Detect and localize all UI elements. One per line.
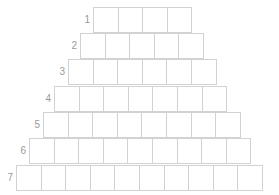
grid-cell[interactable] bbox=[65, 165, 91, 191]
grid-cell[interactable] bbox=[117, 112, 143, 138]
grid-cell[interactable] bbox=[154, 33, 180, 59]
grid-cell[interactable] bbox=[141, 112, 167, 138]
grid-cell[interactable] bbox=[191, 112, 217, 138]
grid-cell[interactable] bbox=[201, 138, 227, 164]
grid-cell[interactable] bbox=[93, 7, 119, 33]
pyramid-row-6 bbox=[29, 138, 251, 164]
grid-cell[interactable] bbox=[79, 86, 105, 112]
grid-cell[interactable] bbox=[213, 165, 239, 191]
grid-cell[interactable] bbox=[142, 59, 168, 85]
pyramid-row-2 bbox=[80, 33, 204, 59]
grid-cell[interactable] bbox=[80, 33, 106, 59]
pyramid-row-5 bbox=[43, 112, 241, 138]
grid-cell[interactable] bbox=[92, 112, 118, 138]
grid-cell[interactable] bbox=[188, 165, 214, 191]
grid-cell[interactable] bbox=[68, 59, 94, 85]
grid-cell[interactable] bbox=[139, 165, 165, 191]
grid-cell[interactable] bbox=[237, 165, 263, 191]
row-label: 4 bbox=[39, 86, 51, 112]
row-label: 1 bbox=[78, 7, 90, 33]
grid-cell[interactable] bbox=[167, 7, 193, 33]
grid-cell[interactable] bbox=[90, 165, 116, 191]
grid-cell[interactable] bbox=[93, 59, 119, 85]
row-label: 3 bbox=[53, 59, 65, 85]
grid-cell[interactable] bbox=[68, 112, 94, 138]
grid-cell[interactable] bbox=[127, 138, 153, 164]
grid-cell[interactable] bbox=[202, 86, 228, 112]
grid-cell[interactable] bbox=[16, 165, 42, 191]
pyramid-row-7 bbox=[16, 165, 263, 191]
grid-cell[interactable] bbox=[215, 112, 241, 138]
grid-cell[interactable] bbox=[177, 86, 203, 112]
grid-cell[interactable] bbox=[142, 7, 168, 33]
grid-cell[interactable] bbox=[43, 112, 69, 138]
grid-cell[interactable] bbox=[166, 112, 192, 138]
grid-cell[interactable] bbox=[29, 138, 55, 164]
grid-cell[interactable] bbox=[78, 138, 104, 164]
pyramid-row-1 bbox=[93, 7, 192, 33]
row-label: 7 bbox=[1, 165, 13, 191]
grid-cell[interactable] bbox=[178, 33, 204, 59]
grid-cell[interactable] bbox=[166, 59, 192, 85]
grid-cell[interactable] bbox=[177, 138, 203, 164]
grid-cell[interactable] bbox=[54, 138, 80, 164]
grid-cell[interactable] bbox=[103, 138, 129, 164]
grid-cell[interactable] bbox=[152, 138, 178, 164]
row-label: 5 bbox=[28, 112, 40, 138]
row-label: 6 bbox=[14, 138, 26, 164]
row-label: 2 bbox=[65, 33, 77, 59]
grid-cell[interactable] bbox=[117, 59, 143, 85]
grid-cell[interactable] bbox=[105, 33, 131, 59]
grid-cell[interactable] bbox=[103, 86, 129, 112]
grid-cell[interactable] bbox=[128, 86, 154, 112]
grid-cell[interactable] bbox=[118, 7, 144, 33]
grid-cell[interactable] bbox=[191, 59, 217, 85]
grid-cell[interactable] bbox=[152, 86, 178, 112]
grid-cell[interactable] bbox=[129, 33, 155, 59]
grid-cell[interactable] bbox=[114, 165, 140, 191]
grid-cell[interactable] bbox=[164, 165, 190, 191]
pyramid-row-3 bbox=[68, 59, 217, 85]
grid-cell[interactable] bbox=[226, 138, 252, 164]
grid-cell[interactable] bbox=[41, 165, 67, 191]
pyramid-row-4 bbox=[54, 86, 227, 112]
grid-cell[interactable] bbox=[54, 86, 80, 112]
